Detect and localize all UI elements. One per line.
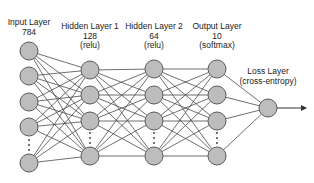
layer-activation: (softmax): [192, 41, 241, 51]
neuron-node: [20, 154, 38, 172]
connection-edge: [38, 71, 81, 75]
layer-activation: (relu): [125, 41, 183, 51]
neuron-node: [208, 86, 226, 104]
neuron-node: [208, 60, 226, 78]
ellipsis-dot: [153, 132, 155, 134]
layer-label-input: Input Layer 784: [8, 18, 51, 37]
connection-edge: [37, 131, 82, 152]
neuron-node: [20, 93, 38, 111]
connection-edge: [99, 69, 145, 70]
neuron-node: [145, 147, 163, 165]
layer-label-output: Output Layer 10 (softmax): [192, 22, 241, 51]
ellipsis-dot: [216, 137, 218, 139]
connection-edge: [34, 78, 85, 156]
neuron-node: [145, 60, 163, 78]
ellipsis-dot: [28, 144, 30, 146]
ellipsis-dot: [28, 139, 30, 141]
connection-edge: [35, 102, 84, 157]
ellipsis-dot: [153, 142, 155, 144]
layer-label-hidden-1: Hidden Layer 1 128 (relu): [61, 22, 119, 51]
connection-edge: [224, 114, 262, 150]
connection-edge: [226, 110, 260, 119]
neurons: [20, 42, 277, 172]
layer-label-hidden-2: Hidden Layer 2 64 (relu): [125, 22, 183, 51]
ellipsis-dot: [216, 132, 218, 134]
ellipsis-dot: [216, 142, 218, 144]
ellipsis-dot: [89, 137, 91, 139]
layer-activation: (relu): [61, 41, 119, 51]
layer-size: 784: [8, 28, 51, 38]
ellipsis-dot: [89, 142, 91, 144]
connection-edge: [38, 122, 81, 126]
neuron-node: [145, 86, 163, 104]
neuron-node: [145, 112, 163, 130]
neuron-node: [81, 147, 99, 165]
connection-edge: [36, 126, 82, 158]
neuron-node: [81, 61, 99, 79]
layer-activation: (cross-entropy): [239, 77, 296, 87]
ellipsis-dot: [89, 132, 91, 134]
connection-edge: [38, 79, 82, 93]
connection-edge: [36, 76, 84, 121]
ellipsis-dot: [28, 149, 30, 151]
neuron-node: [259, 99, 277, 117]
neuron-node: [208, 112, 226, 130]
connection-edge: [37, 74, 82, 98]
ellipsis-dots: [28, 132, 218, 151]
neuron-node: [81, 112, 99, 130]
connection-edge: [38, 54, 82, 68]
neuron-node: [20, 118, 38, 136]
connection-edge: [38, 157, 81, 162]
connection-edge: [34, 59, 86, 148]
neuron-node: [20, 67, 38, 85]
neuron-node: [208, 147, 226, 165]
connection-edge: [226, 97, 260, 106]
neuron-node: [20, 42, 38, 60]
ellipsis-dot: [153, 137, 155, 139]
layer-label-loss: Loss Layer (cross-entropy): [239, 67, 296, 86]
neuron-node: [81, 86, 99, 104]
